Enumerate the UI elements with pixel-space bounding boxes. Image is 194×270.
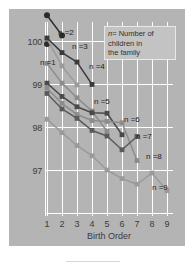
data-point bbox=[45, 81, 50, 86]
data-point bbox=[90, 153, 95, 158]
data-point bbox=[75, 95, 80, 100]
legend-equals: = bbox=[112, 29, 116, 38]
data-point bbox=[75, 143, 80, 148]
data-point bbox=[105, 119, 110, 124]
data-point bbox=[150, 171, 155, 176]
legend-line1: Number of bbox=[119, 29, 154, 38]
data-point bbox=[75, 104, 80, 109]
data-point bbox=[105, 134, 110, 139]
data-point bbox=[90, 110, 95, 115]
figure-root: 100 99 98 97 1 2 3 4 5 6 7 8 9 Birth Ord… bbox=[0, 0, 194, 270]
data-point bbox=[45, 36, 50, 41]
data-point bbox=[75, 60, 80, 65]
data-point bbox=[90, 118, 95, 123]
data-point bbox=[60, 101, 65, 106]
data-point bbox=[60, 64, 65, 69]
data-point bbox=[75, 116, 80, 121]
footer-rule bbox=[66, 261, 120, 262]
data-point bbox=[60, 94, 65, 99]
data-point bbox=[90, 82, 95, 87]
series-label-n8: n =8 bbox=[146, 152, 162, 161]
legend-line2: children in bbox=[108, 39, 142, 48]
legend-line3: the family bbox=[108, 48, 140, 57]
legend-box: n= Number of children in the family bbox=[104, 26, 176, 60]
data-point bbox=[135, 158, 140, 163]
data-point bbox=[120, 176, 125, 181]
data-point bbox=[105, 168, 110, 173]
series-label-n6: n =6 bbox=[124, 115, 140, 124]
data-point bbox=[45, 117, 50, 122]
series-label-n5: n =5 bbox=[94, 97, 110, 106]
data-point bbox=[45, 86, 50, 91]
data-point bbox=[135, 182, 140, 187]
series-label-n9: n =9 bbox=[152, 183, 168, 192]
series-label-n2: n =2 bbox=[58, 28, 74, 37]
series-label-n7: n =7 bbox=[136, 132, 152, 141]
data-point bbox=[105, 129, 110, 134]
series-n7 bbox=[45, 86, 140, 163]
data-point bbox=[44, 12, 50, 18]
data-point bbox=[60, 50, 65, 55]
data-point bbox=[60, 107, 65, 112]
series-label-n3: n =3 bbox=[72, 42, 88, 51]
data-point bbox=[90, 128, 95, 133]
data-point bbox=[120, 132, 125, 137]
series-label-n4: n =4 bbox=[89, 62, 105, 71]
series-label-n1: n =1 bbox=[40, 58, 56, 67]
data-point bbox=[120, 147, 125, 152]
data-point bbox=[105, 111, 110, 116]
data-point bbox=[60, 81, 65, 86]
data-point bbox=[45, 91, 50, 96]
data-point bbox=[75, 82, 80, 87]
data-point bbox=[60, 130, 65, 135]
series-line bbox=[47, 83, 122, 135]
